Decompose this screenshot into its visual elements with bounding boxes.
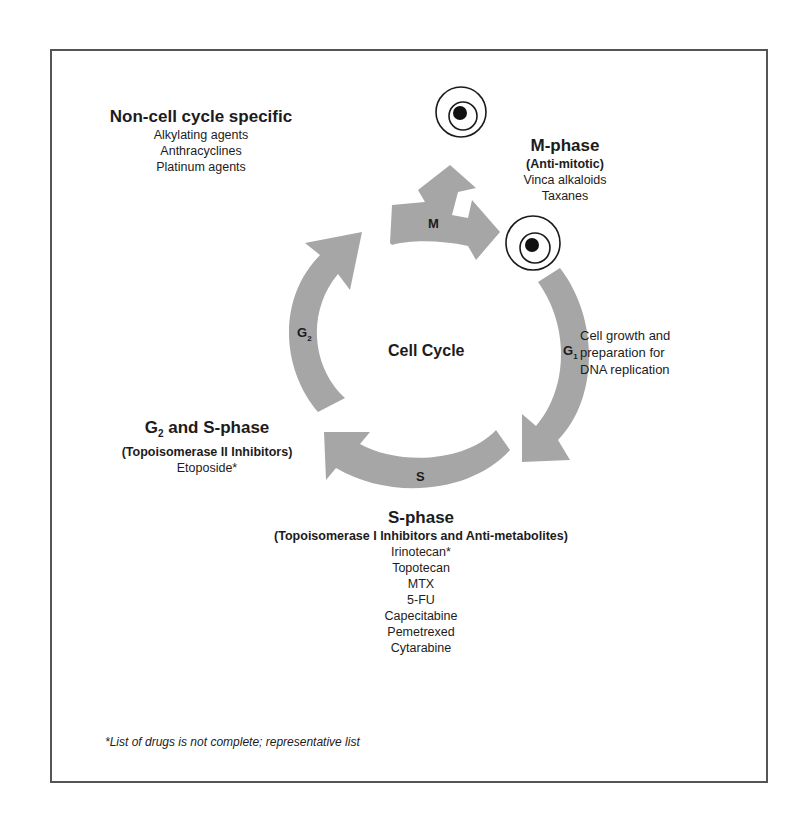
group-subtitle: (Topoisomerase I Inhibitors and Anti-met… (256, 528, 586, 544)
drug-item: Irinotecan* (256, 544, 586, 560)
drug-item: 5-FU (256, 592, 586, 608)
drug-item: Capecitabine (256, 608, 586, 624)
group-title: Non-cell cycle specific (103, 107, 299, 127)
g2-arrow (289, 232, 362, 412)
group-title: S-phase (256, 508, 586, 528)
group-s-phase: S-phase (Topoisomerase I Inhibitors and … (256, 508, 586, 656)
group-m-phase: M-phase (Anti-mitotic) Vinca alkaloids T… (515, 136, 615, 204)
drug-item: Taxanes (515, 188, 615, 204)
m-arrow (390, 165, 500, 260)
group-title: G2 and S-phase (102, 418, 312, 444)
drug-item: Etoposide* (102, 460, 312, 476)
drug-item: MTX (256, 576, 586, 592)
drug-item: Alkylating agents (103, 127, 299, 143)
description-line: DNA replication (580, 361, 670, 378)
group-non-cell-cycle: Non-cell cycle specific Alkylating agent… (103, 107, 299, 175)
phase-label-g2: G2 (297, 325, 312, 343)
phase-label-g1: G1 (563, 343, 578, 361)
group-subtitle: (Topoisomerase II Inhibitors) (102, 444, 312, 460)
g1-description: Cell growth and preparation for DNA repl… (580, 327, 670, 378)
phase-label-m: M (428, 216, 439, 231)
drug-item: Vinca alkaloids (515, 172, 615, 188)
group-subtitle: (Anti-mitotic) (515, 156, 615, 172)
cell-icon-top (436, 87, 486, 137)
drug-item: Pemetrexed (256, 624, 586, 640)
description-line: preparation for (580, 344, 670, 361)
drug-item: Cytarabine (256, 640, 586, 656)
g1-arrow (522, 268, 589, 462)
group-title: M-phase (515, 136, 615, 156)
description-line: Cell growth and (580, 327, 670, 344)
drug-item: Platinum agents (103, 159, 299, 175)
cell-icon-right (506, 216, 560, 270)
center-label: Cell Cycle (388, 342, 464, 360)
footnote: *List of drugs is not complete; represen… (105, 735, 360, 749)
group-g2-s-phase: G2 and S-phase (Topoisomerase II Inhibit… (102, 418, 312, 476)
phase-label-s: S (416, 469, 425, 484)
drug-item: Topotecan (256, 560, 586, 576)
drug-item: Anthracyclines (103, 143, 299, 159)
